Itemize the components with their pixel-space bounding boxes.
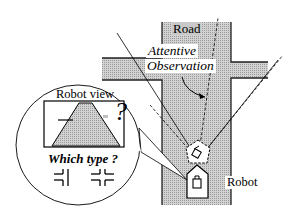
road-branch-right	[231, 62, 268, 78]
robot-view-label: Robot view	[56, 88, 114, 101]
robot-view-image	[44, 101, 124, 147]
observation-label: Observation	[145, 59, 216, 73]
right-branch-unknown	[103, 115, 108, 118]
which-type-label: Which type ?	[48, 152, 118, 165]
attentive-label: Attentive	[146, 44, 198, 58]
robot-label: Robot	[225, 176, 260, 189]
question-mark-label: ?	[114, 99, 127, 125]
road-label: Road	[172, 22, 201, 35]
robot-attentive-observation-diagram	[0, 0, 289, 223]
